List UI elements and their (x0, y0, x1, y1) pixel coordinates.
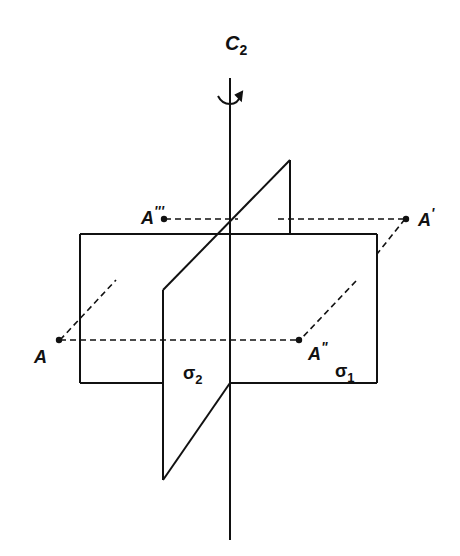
plane-sigma1 (80, 234, 377, 383)
label-A: A (33, 347, 47, 367)
point-A (56, 337, 62, 343)
point-A1 (403, 216, 409, 222)
label-A3: A''' (140, 203, 165, 228)
label-A1: A' (417, 205, 435, 230)
label-sigma1: σ1 (335, 361, 355, 385)
label-A2: A" (307, 339, 328, 364)
plane-sigma2 (163, 160, 290, 480)
axis-label: C2 (225, 32, 247, 58)
label-sigma2: σ2 (183, 363, 203, 387)
dashed-connectors (60, 219, 405, 340)
point-A2 (296, 337, 302, 343)
symmetry-diagram: C2 A''' A' A A" σ1 σ2 (0, 0, 460, 556)
